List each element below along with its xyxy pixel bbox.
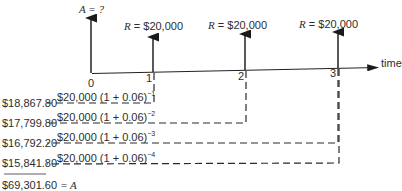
- discount-expr-1: $20,000 (1 + 0.06)−1: [57, 90, 155, 103]
- tick-0: 0: [88, 78, 94, 89]
- time-axis-label: time: [381, 58, 402, 69]
- tick-2: 2: [238, 71, 244, 82]
- discount-value-2: $17,799.80: [2, 118, 57, 129]
- tick-1: 1: [146, 73, 152, 84]
- payment-label-1: R = $20,000: [124, 21, 183, 32]
- tick-3: 3: [330, 68, 336, 79]
- discount-value-4: $15,841.80: [2, 158, 57, 169]
- discount-value-1: $18,867.80: [2, 98, 57, 109]
- discount-expr-3: $20,000 (1 + 0.06)−3: [57, 130, 155, 143]
- discount-expr-2: $20,000 (1 + 0.06)−2: [57, 110, 155, 123]
- discount-expr-4: $20,000 (1 + 0.06)−4: [57, 151, 155, 164]
- total-row: $69,301.60 = A: [2, 180, 77, 191]
- payment-label-2: R = $20,000: [208, 20, 267, 31]
- discount-value-3: $16,792.20: [2, 138, 57, 149]
- present-value-label: A = ?: [79, 4, 104, 15]
- payment-label-3: R = $20,000: [299, 19, 358, 30]
